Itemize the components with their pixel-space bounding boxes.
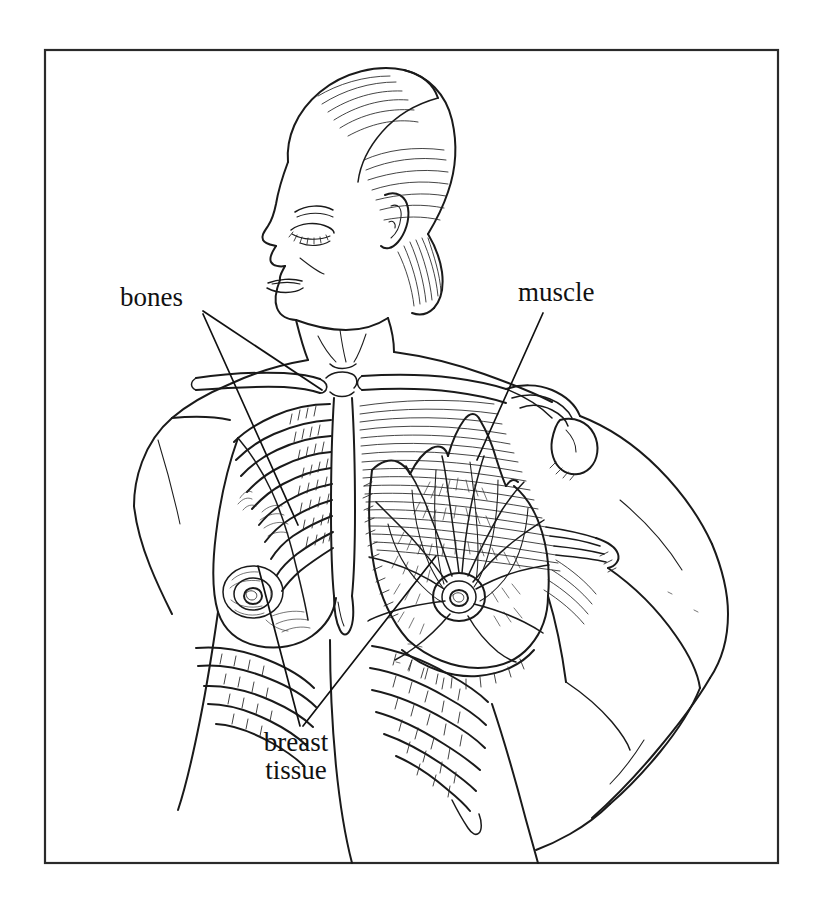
label-breast-tissue-line1: breast (250, 728, 342, 756)
label-breast-tissue-line2: tissue (250, 756, 342, 784)
label-muscle: muscle (518, 278, 594, 306)
label-bones: bones (120, 283, 183, 311)
anatomy-illustration-canvas (0, 0, 823, 914)
anatomy-figure: bones muscle breast tissue (0, 0, 823, 914)
label-breast-tissue: breast tissue (250, 728, 342, 784)
